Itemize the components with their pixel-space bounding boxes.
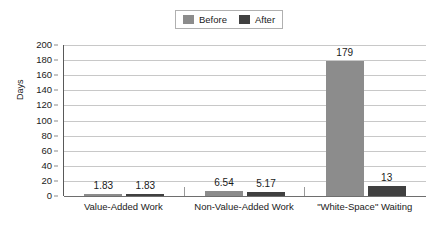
legend-entry-after[interactable]: After: [239, 15, 275, 25]
bar-chart: Before After Days 2001801601401201008060…: [0, 0, 433, 235]
x-axis-labels: Value-Added WorkNon-Value-Added Work"Whi…: [63, 201, 425, 212]
bar-group: 1.831.83: [64, 45, 185, 196]
y-tick-mark: [54, 90, 58, 91]
y-tick-label: 20: [41, 176, 52, 186]
legend-label-before: Before: [199, 15, 227, 25]
bar-group: 6.545.17: [185, 45, 306, 196]
bar-groups: 1.831.836.545.1717913: [64, 45, 426, 196]
bar-after[interactable]: 5.17: [247, 45, 285, 196]
bar-rect[interactable]: [84, 194, 122, 196]
bar-rect[interactable]: [247, 192, 285, 196]
legend-label-after: After: [255, 15, 275, 25]
plot-area: 1.831.836.545.1717913: [63, 45, 426, 196]
y-tick-label: 160: [36, 70, 52, 80]
x-axis-label: "White-Space" Waiting: [304, 201, 425, 212]
bar-value-label: 1.83: [136, 181, 155, 191]
x-axis-label: Value-Added Work: [63, 201, 184, 212]
y-tick-label: 200: [36, 40, 52, 50]
y-tick-label: 60: [41, 146, 52, 156]
bar-value-label: 5.17: [256, 179, 275, 189]
y-tick-label: 140: [36, 86, 52, 96]
bar-rect[interactable]: [205, 191, 243, 196]
y-tick-label: 100: [36, 116, 52, 126]
y-tick-label: 0: [47, 191, 52, 201]
bar-before[interactable]: 1.83: [84, 45, 122, 196]
legend-swatch-before: [183, 15, 194, 24]
bar-rect[interactable]: [126, 194, 164, 196]
y-tick-label: 40: [41, 161, 52, 171]
y-tick-mark: [54, 60, 58, 61]
chart-legend: Before After: [175, 10, 283, 29]
x-axis-label: Non-Value-Added Work: [184, 201, 305, 212]
y-tick-mark: [54, 75, 58, 76]
y-tick-mark: [54, 105, 58, 106]
bar-rect[interactable]: [326, 61, 364, 196]
bar-before[interactable]: 6.54: [205, 45, 243, 196]
bar-value-label: 13: [381, 173, 392, 183]
bar-before[interactable]: 179: [326, 45, 364, 196]
bar-after[interactable]: 13: [368, 45, 406, 196]
legend-entry-before[interactable]: Before: [183, 15, 227, 25]
y-tick-mark: [54, 135, 58, 136]
gridline-0: [64, 196, 426, 197]
bar-after[interactable]: 1.83: [126, 45, 164, 196]
bar-value-label: 6.54: [214, 178, 233, 188]
y-tick-mark: [54, 120, 58, 121]
y-tick-label: 180: [36, 55, 52, 65]
y-tick-mark: [54, 196, 58, 197]
y-tick-mark: [54, 45, 58, 46]
bar-value-label: 179: [336, 48, 353, 58]
y-tick-mark: [54, 150, 58, 151]
y-tick-label: 80: [41, 131, 52, 141]
y-tick-label: 120: [36, 101, 52, 111]
bar-value-label: 1.83: [94, 181, 113, 191]
y-tick-mark: [54, 165, 58, 166]
y-axis-ticks: 200180160140120100806040200: [0, 45, 58, 196]
bar-group: 17913: [305, 45, 426, 196]
y-tick-mark: [54, 180, 58, 181]
bar-rect[interactable]: [368, 186, 406, 196]
legend-swatch-after: [239, 15, 250, 24]
